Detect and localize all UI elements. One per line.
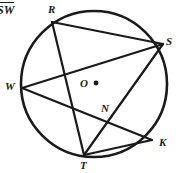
point-label-w: W <box>5 81 15 92</box>
point-label-k: K <box>159 137 166 148</box>
chord-WK <box>22 88 152 140</box>
center-dot <box>94 81 99 86</box>
center-label-o: O <box>80 78 88 89</box>
segment-caption-sw: SW <box>0 2 14 18</box>
chord-ST <box>84 44 163 155</box>
point-label-n: N <box>101 103 109 114</box>
point-label-t: T <box>80 160 87 171</box>
point-label-r: R <box>48 4 55 15</box>
geometry-figure-screenshot: SW R S W N K T O <box>0 0 178 173</box>
circle-diagram <box>0 0 178 173</box>
chord-WS <box>22 44 163 88</box>
point-label-s: S <box>166 36 172 47</box>
